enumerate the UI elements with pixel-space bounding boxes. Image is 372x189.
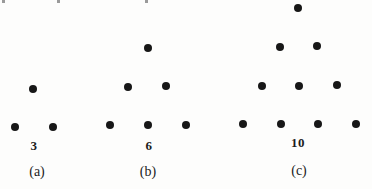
triangular-numbers-figure: 3(a)6(b)10(c) [0, 0, 372, 189]
caption-label-c: (c) [291, 163, 307, 179]
dot-b [162, 82, 170, 90]
caption-label-a: (a) [29, 164, 45, 180]
clipped-text-fragment [2, 0, 5, 3]
dot-c [313, 42, 321, 50]
dot-b [182, 121, 190, 129]
dot-c [352, 120, 360, 128]
dot-a [29, 85, 37, 93]
count-label-a: 3 [31, 138, 38, 154]
clipped-text-fragment [145, 0, 148, 3]
dot-c [295, 82, 303, 90]
count-label-b: 6 [146, 138, 153, 154]
dot-b [144, 121, 152, 129]
caption-label-b: (b) [140, 164, 156, 180]
dot-c [333, 81, 341, 89]
dot-b [144, 44, 152, 52]
dot-c [277, 120, 285, 128]
count-label-c: 10 [291, 135, 305, 151]
clipped-text-fragment [57, 0, 60, 3]
dot-c [294, 4, 302, 12]
dot-b [106, 121, 114, 129]
dot-a [11, 123, 19, 131]
dot-c [276, 43, 284, 51]
dot-c [239, 120, 247, 128]
dot-c [258, 82, 266, 90]
dot-a [49, 123, 57, 131]
dot-c [314, 120, 322, 128]
dot-b [124, 83, 132, 91]
